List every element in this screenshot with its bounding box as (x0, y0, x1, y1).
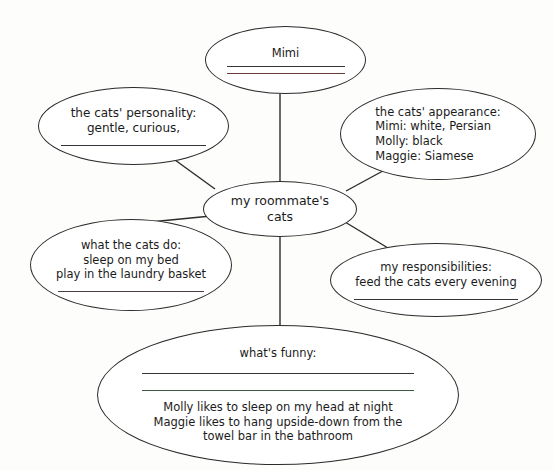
node-mimi-rule-0 (227, 66, 345, 67)
node-appearance-line-1: Mimi: white, Persian (375, 119, 491, 133)
node-funny-rule-1 (142, 390, 414, 391)
cluster-diagram-canvas: Mimi the cats' personality: gentle, curi… (0, 0, 553, 470)
connector-center-to-resp (345, 222, 388, 248)
node-mimi-rule-1 (227, 73, 345, 74)
node-personality-rule-0 (61, 145, 206, 146)
node-resp-line-1: feed the cats every evening (355, 275, 516, 290)
node-do-rule-0 (58, 291, 204, 292)
connector-center-to-personality (175, 160, 215, 189)
center-topic-line-1: cats (267, 209, 293, 225)
node-funny-line-2: towel bar in the bathroom (203, 429, 353, 444)
node-appearance-body: the cats' appearance: Mimi: white, Persi… (375, 105, 500, 164)
center-topic-line-0: my roommate's (231, 193, 329, 209)
node-appearance-line-0: the cats' appearance: (375, 105, 500, 119)
node-funny-line-0: Molly likes to sleep on my head at night (163, 400, 392, 415)
node-resp-rule-0 (354, 299, 518, 300)
node-personality-line-1: gentle, curious, (87, 121, 180, 136)
node-resp-line-0: my responsibilities: (380, 260, 492, 275)
node-appearance-line-2: Molly: black (375, 134, 442, 148)
node-funny-line-1: Maggie likes to hang upside-down from th… (154, 415, 403, 430)
node-appearance[interactable]: the cats' appearance: Mimi: white, Persi… (340, 88, 536, 180)
node-mimi-line-0: Mimi (272, 46, 300, 61)
node-appearance-line-3: Maggie: Siamese (375, 149, 473, 163)
node-responsibilities[interactable]: my responsibilities: feed the cats every… (330, 243, 542, 317)
node-do-line-2: play in the laundry basket (56, 267, 206, 282)
node-personality[interactable]: the cats' personality: gentle, curious, (38, 87, 229, 165)
node-personality-line-0: the cats' personality: (71, 106, 197, 121)
node-what-the-cats-do[interactable]: what the cats do: sleep on my bed play i… (30, 219, 232, 311)
node-funny-heading: what's funny: (240, 346, 317, 361)
node-center-topic[interactable]: my roommate's cats (203, 181, 357, 237)
node-do-line-1: sleep on my bed (83, 253, 179, 268)
node-funny-rule-0 (142, 373, 414, 374)
node-do-line-0: what the cats do: (81, 238, 181, 253)
node-whats-funny[interactable]: what's funny: Molly likes to sleep on my… (97, 325, 459, 465)
node-mimi[interactable]: Mimi (205, 26, 366, 94)
